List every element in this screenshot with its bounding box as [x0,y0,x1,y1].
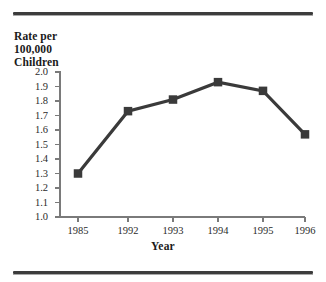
x-tick-label: 1993 [153,226,193,236]
data-point-marker [74,169,83,178]
y-tick-label: 1.2 [20,183,48,193]
data-point-marker [214,78,223,87]
y-tick-label: 1.3 [20,169,48,179]
data-point-marker [301,130,310,139]
data-point-marker [124,107,133,116]
series-line [78,82,305,173]
x-axis-title: Year [0,240,326,252]
bottom-divider-rule-shadow [13,274,313,275]
x-tick-label: 1995 [243,226,283,236]
y-tick-label: 1.5 [20,140,48,150]
y-tick-label: 1.6 [20,125,48,135]
y-tick-label: 1.7 [20,111,48,121]
x-tick-label: 1994 [198,226,238,236]
x-tick-label: 1992 [108,226,148,236]
data-point-marker [259,87,268,96]
x-tick-label: 1996 [285,226,325,236]
y-tick-label: 1.0 [20,212,48,222]
data-point-marker [169,95,178,104]
y-tick-label: 1.4 [20,154,48,164]
y-tick-label: 1.9 [20,82,48,92]
data-series-group [74,78,310,178]
y-tick-label: 1.1 [20,198,48,208]
x-tick-label: 1985 [58,226,98,236]
y-tick-label: 2.0 [20,67,48,77]
y-tick-label: 1.8 [20,96,48,106]
line-chart-figure: Rate per 100,000 Children 2.01.91.81.71.… [0,0,326,282]
